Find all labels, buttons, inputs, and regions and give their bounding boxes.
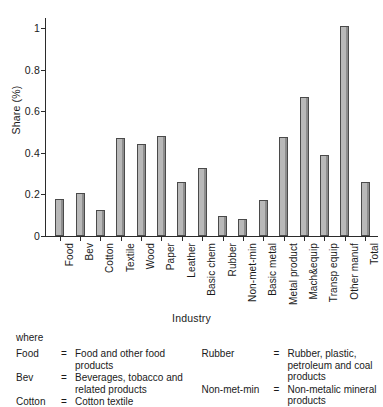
plot-area [45, 18, 378, 236]
y-tick-label: 1 [14, 22, 40, 34]
glossary-column-left: Food=Food and other food productsBev=Bev… [0, 348, 192, 407]
y-tick-mark [41, 28, 46, 29]
x-tick-mark [263, 237, 264, 241]
x-tick-label: Rubber [227, 243, 238, 276]
bar [76, 193, 85, 236]
bar [259, 200, 268, 236]
x-tick-mark [243, 237, 244, 241]
x-tick-mark [202, 237, 203, 241]
glossary-term: Non-met-min [192, 384, 274, 396]
x-tick-label: Basic metal [267, 243, 278, 296]
y-tick-label: 0.2 [14, 188, 40, 200]
x-tick-mark [161, 237, 162, 241]
glossary-definition: Non-metalic mineral products [288, 384, 383, 407]
glossary-term: Bev [0, 372, 61, 384]
x-tick-mark [80, 237, 81, 241]
bar [238, 219, 247, 236]
x-tick-mark [345, 237, 346, 241]
glossary-equals: = [61, 396, 75, 407]
y-tick-mark [41, 236, 46, 237]
bar [137, 144, 146, 236]
x-tick-mark [365, 237, 366, 241]
x-tick-label: Metal product [288, 243, 299, 305]
glossary-row: Food=Food and other food products [0, 348, 192, 371]
bar [198, 168, 207, 237]
glossary-row: Rubber=Rubber, plastic, petroleum and co… [192, 348, 383, 383]
glossary-row: Non-met-min=Non-metalic mineral products [192, 384, 383, 407]
x-tick-mark [182, 237, 183, 241]
x-tick-mark [304, 237, 305, 241]
x-tick-mark [223, 237, 224, 241]
x-tick-label: Bev [84, 243, 95, 261]
glossary-columns: Food=Food and other food productsBev=Bev… [0, 348, 383, 407]
bar [279, 137, 288, 236]
x-tick-label: Textile [125, 243, 136, 272]
x-tick-label: Leather [186, 243, 197, 278]
x-axis-line [45, 236, 378, 237]
y-tick-label: 0.8 [14, 64, 40, 76]
bar [177, 182, 186, 236]
y-tick-labels: 00.20.40.60.81 [14, 0, 40, 330]
y-tick-label: 0.4 [14, 147, 40, 159]
bar-chart: Share (%) 00.20.40.60.81 Industry FoodBe… [0, 0, 383, 330]
glossary-row: Bev=Beverages, tobacco and related produ… [0, 372, 192, 395]
y-tick-mark [41, 70, 46, 71]
bar [157, 136, 166, 236]
x-tick-label: Total [369, 243, 380, 265]
figure: Share (%) 00.20.40.60.81 Industry FoodBe… [0, 0, 383, 407]
bar [218, 216, 227, 236]
x-tick-mark [121, 237, 122, 241]
y-tick-label: 0.6 [14, 105, 40, 117]
glossary-equals: = [274, 384, 288, 396]
x-tick-mark [284, 237, 285, 241]
x-tick-label: Cotton [104, 243, 115, 273]
bar [320, 155, 329, 236]
x-tick-mark [100, 237, 101, 241]
glossary-term: Food [0, 348, 61, 360]
x-tick-mark [324, 237, 325, 241]
x-tick-label: Paper [165, 243, 176, 270]
glossary: where Food=Food and other food productsB… [0, 332, 383, 407]
bar [55, 199, 64, 236]
glossary-equals: = [61, 348, 75, 360]
glossary-term: Cotton [0, 396, 61, 407]
x-tick-mark [141, 237, 142, 241]
x-axis-title: Industry [0, 312, 383, 324]
x-tick-label: Transp equip [328, 243, 339, 302]
x-tick-label: Food [64, 243, 75, 266]
glossary-where-label: where [16, 332, 43, 344]
bar [340, 26, 349, 236]
glossary-equals: = [274, 348, 288, 360]
x-tick-label: Mach&equip [308, 243, 319, 300]
x-tick-mark [60, 237, 61, 241]
glossary-term: Rubber [192, 348, 274, 360]
x-tick-label: Other manuf [349, 243, 360, 300]
x-tick-label: Non-met-min [247, 243, 258, 302]
x-tick-label: Wood [145, 243, 156, 269]
glossary-definition: Beverages, tobacco and related products [75, 372, 192, 395]
x-tick-label: Basic chem [206, 243, 217, 296]
bar [361, 182, 370, 236]
y-tick-mark [41, 111, 46, 112]
glossary-definition: Food and other food products [75, 348, 192, 371]
glossary-column-right: Rubber=Rubber, plastic, petroleum and co… [192, 348, 383, 407]
glossary-definition: Cotton textile [75, 396, 192, 407]
bar [300, 97, 309, 236]
bar [96, 210, 105, 236]
y-tick-label: 0 [14, 230, 40, 242]
glossary-row: Cotton=Cotton textile [0, 396, 192, 407]
glossary-equals: = [61, 372, 75, 384]
glossary-definition: Rubber, plastic, petroleum and coal prod… [288, 348, 383, 383]
bar [116, 138, 125, 236]
y-tick-mark [41, 194, 46, 195]
y-tick-mark [41, 153, 46, 154]
